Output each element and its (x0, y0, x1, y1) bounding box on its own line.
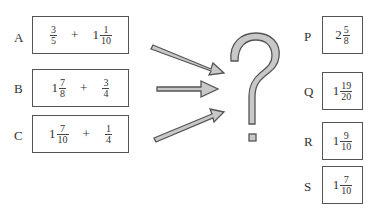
fraction: 1 110 (92, 25, 112, 46)
plus-operator: + (83, 126, 90, 142)
numerator: 7 (59, 78, 66, 88)
numerator: 3 (50, 25, 57, 35)
numerator: 9 (343, 131, 350, 141)
question-box-c: 1 710 + 14 (32, 115, 129, 153)
answer-box-p: 2 58 (322, 16, 363, 54)
answer-box-q: 1 1920 (322, 72, 363, 110)
plus-operator: + (80, 80, 87, 96)
numerator: 7 (59, 124, 66, 134)
answer-label-s: S (304, 179, 311, 195)
arrow-icon-c (154, 109, 224, 142)
question-label-c: C (14, 128, 23, 144)
arrow-icon-a (151, 45, 224, 75)
numerator: 5 (343, 25, 350, 35)
fraction: 1 710 (333, 175, 353, 196)
fraction: 2 58 (335, 25, 350, 46)
fraction: 1 710 (49, 124, 69, 145)
answer-label-r: R (304, 134, 313, 150)
question-mark-icon (231, 33, 279, 124)
denominator: 10 (340, 141, 352, 152)
question-label-b: B (14, 81, 23, 97)
answer-label-q: Q (304, 84, 313, 100)
denominator: 10 (340, 185, 352, 196)
denominator: 10 (100, 35, 112, 46)
question-mark-dot (249, 134, 256, 141)
denominator: 20 (340, 91, 352, 102)
question-box-b: 1 78 + 34 (32, 69, 129, 107)
denominator: 4 (105, 134, 112, 145)
fraction: 14 (104, 124, 112, 145)
fraction: 34 (101, 78, 109, 99)
denominator: 10 (57, 134, 69, 145)
answer-box-s: 1 710 (322, 166, 363, 204)
fraction: 1 910 (333, 131, 353, 152)
denominator: 8 (59, 88, 66, 99)
denominator: 8 (343, 35, 350, 46)
denominator: 5 (50, 35, 57, 46)
numerator: 1 (105, 124, 112, 134)
fraction: 35 (49, 25, 57, 46)
numerator: 19 (340, 81, 352, 91)
numerator: 3 (102, 78, 109, 88)
answer-label-p: P (304, 29, 311, 45)
question-box-a: 35 + 1 110 (32, 16, 129, 54)
question-label-a: A (14, 30, 23, 46)
denominator: 4 (102, 88, 109, 99)
arrow-icon-b (157, 81, 218, 97)
fraction: 1 78 (52, 78, 67, 99)
fraction: 1 1920 (333, 81, 353, 102)
answer-box-r: 1 910 (322, 122, 363, 160)
numerator: 7 (343, 175, 350, 185)
numerator: 1 (102, 25, 109, 35)
plus-operator: + (71, 27, 78, 43)
